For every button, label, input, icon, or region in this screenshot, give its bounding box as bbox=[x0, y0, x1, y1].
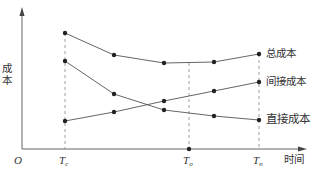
tick-to: To bbox=[183, 155, 193, 168]
tick-tn-sub: n bbox=[259, 160, 263, 168]
y-axis-label: 成 本 bbox=[2, 62, 14, 86]
to-axis-marker bbox=[187, 147, 191, 151]
axes bbox=[20, 7, 308, 152]
y-axis-label-char-2: 本 bbox=[2, 74, 14, 86]
y-axis-arrow-icon bbox=[20, 7, 25, 16]
total-cost-point bbox=[257, 52, 261, 56]
direct-cost-point bbox=[63, 59, 67, 63]
y-axis-label-char-1: 成 bbox=[2, 62, 14, 74]
time-cost-chart: 成 本 O Tc To Tn 时间 总成本 间接成本 直接成本 bbox=[0, 0, 317, 174]
indirect-cost-point bbox=[212, 89, 216, 93]
indirect-cost-point bbox=[162, 99, 166, 103]
series-points bbox=[63, 31, 261, 123]
origin-label: O bbox=[14, 155, 22, 166]
direct-cost-point bbox=[112, 92, 116, 96]
indirect-cost-point bbox=[257, 80, 261, 84]
tick-tc-sub: c bbox=[65, 160, 68, 168]
x-axis-label: 时间 bbox=[284, 154, 304, 165]
indirect-cost-point bbox=[63, 119, 67, 123]
indirect-cost-point bbox=[112, 110, 116, 114]
tick-tc: Tc bbox=[59, 155, 68, 168]
legend-direct-cost: 直接成本 bbox=[266, 114, 310, 126]
legend-total-cost: 总成本 bbox=[266, 48, 296, 59]
tick-to-sub: o bbox=[189, 160, 193, 168]
direct-cost-point bbox=[162, 108, 166, 112]
total-cost-line bbox=[65, 33, 259, 63]
direct-cost-line bbox=[65, 61, 259, 120]
direct-cost-point bbox=[257, 118, 261, 122]
total-cost-point bbox=[212, 60, 216, 64]
x-axis-arrow-icon bbox=[298, 147, 307, 152]
total-cost-point bbox=[162, 61, 166, 65]
series-lines bbox=[65, 33, 259, 121]
tick-tn: Tn bbox=[253, 155, 263, 168]
guide-lines bbox=[65, 33, 259, 149]
direct-cost-point bbox=[212, 114, 216, 118]
legend-indirect-cost: 间接成本 bbox=[266, 76, 306, 87]
total-cost-point bbox=[63, 31, 67, 35]
total-cost-point bbox=[112, 53, 116, 57]
chart-svg bbox=[0, 0, 317, 174]
